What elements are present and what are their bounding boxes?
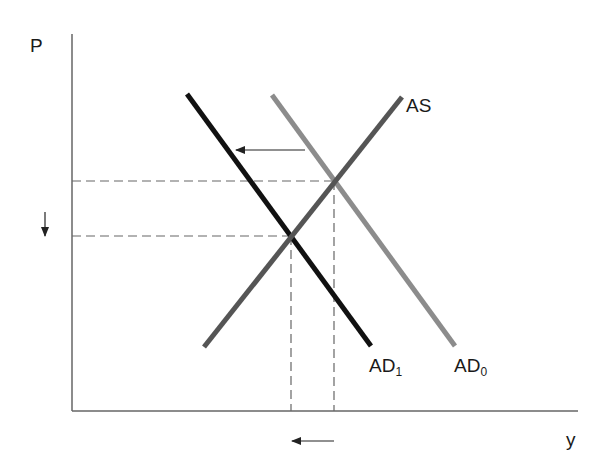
ad1-label-main: AD bbox=[369, 355, 395, 376]
x-axis-label: y bbox=[566, 429, 576, 450]
ad-as-diagram: P y AS AD1 AD0 bbox=[0, 0, 612, 469]
ad1-curve bbox=[187, 94, 371, 346]
as-label: AS bbox=[406, 95, 431, 116]
dashed-guides bbox=[72, 181, 334, 411]
ad0-label-sub: 0 bbox=[480, 365, 487, 379]
ad1-label-sub: 1 bbox=[395, 365, 402, 379]
ad0-label: AD0 bbox=[454, 355, 487, 379]
ad0-label-main: AD bbox=[454, 355, 480, 376]
ad0-curve bbox=[272, 95, 455, 346]
ad1-label: AD1 bbox=[369, 355, 402, 379]
y-axis-label: P bbox=[30, 35, 43, 56]
